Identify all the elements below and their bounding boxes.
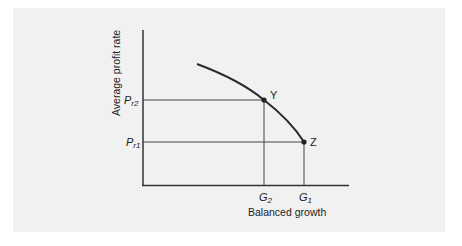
diagram: Y Z Pr2 Pr1 G2 G1 Balanced growth Averag… (0, 0, 462, 246)
tick-g1: G1 (299, 191, 312, 205)
tick-g2: G2 (259, 191, 273, 205)
y-axis-label: Average profit rate (110, 30, 122, 116)
profit-growth-curve (197, 64, 304, 142)
point-z (301, 139, 306, 144)
x-axis-label: Balanced growth (248, 206, 326, 218)
point-y-label: Y (270, 89, 278, 101)
point-z-label: Z (310, 136, 317, 148)
tick-pr1: Pr1 (126, 136, 140, 150)
tick-pr2: Pr2 (124, 94, 139, 108)
point-y (261, 97, 266, 102)
